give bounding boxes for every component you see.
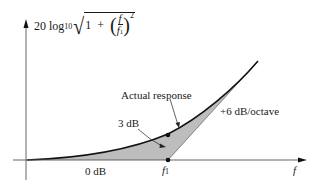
x-axis-arrow-icon: [298, 158, 307, 163]
actual-response-label: Actual response: [121, 89, 192, 101]
zero-db-label: 0 dB: [85, 165, 106, 177]
corner-frequency-sub: 1: [165, 167, 169, 176]
corner-frequency-label: f1: [162, 164, 169, 176]
sqrt-symbol-icon: √: [73, 13, 84, 39]
y-label-exponent: 2: [130, 11, 134, 20]
left-paren-icon: (: [110, 14, 117, 37]
y-axis-label: 20 log10 √ 1 + ( f f1 ) 2: [34, 14, 135, 38]
y-label-one: 1: [85, 18, 91, 33]
x-axis-label: f: [293, 164, 296, 176]
actual-response-leader: [170, 99, 178, 125]
actual-response-point: [166, 133, 171, 138]
three-db-label: 3 dB: [118, 117, 139, 129]
y-label-radicand: 1 + ( f f1 ) 2: [84, 12, 135, 38]
y-label-plus: +: [97, 18, 104, 33]
slope-label: +6 dB/octave: [220, 105, 279, 117]
corner-frequency-point: [166, 158, 171, 163]
y-label-log-base: 10: [64, 22, 72, 31]
y-axis-arrow-icon: [24, 19, 29, 28]
y-label-prefix: 20 log: [34, 19, 64, 34]
right-paren-icon: ): [123, 14, 130, 37]
